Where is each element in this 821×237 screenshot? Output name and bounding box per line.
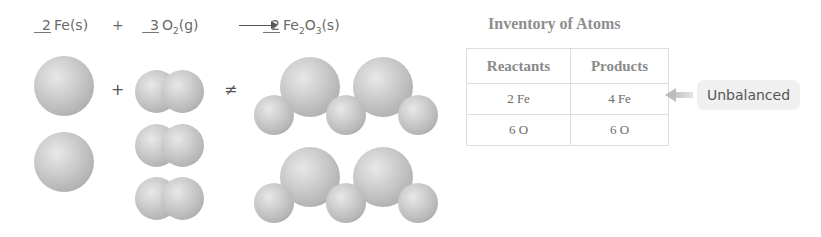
inventory-title: Inventory of Atoms (488, 15, 620, 33)
product-fe2o3-term: 2Fe2O3(s) (263, 17, 340, 36)
coefficient-blank: 2 (34, 19, 51, 33)
formula-part: O (305, 17, 316, 33)
header-reactants: Reactants (467, 49, 571, 84)
formula-part: Fe (283, 17, 299, 33)
reactant-o2-term: 3O2(g) (142, 17, 199, 36)
left-arrow-head-icon (665, 88, 676, 102)
cell-products: 4 Fe (571, 84, 669, 115)
inventory-table: Reactants Products 2 Fe 4 Fe 6 O 6 O (466, 48, 669, 146)
state: (s) (321, 17, 339, 33)
formula: Fe (54, 17, 70, 33)
fe-atom-icon (34, 132, 94, 192)
table-row: 2 Fe 4 Fe (467, 84, 669, 115)
cell-products: 6 O (571, 115, 669, 146)
plus-sign: + (112, 17, 124, 33)
coefficient-blank: 3 (142, 19, 159, 33)
status-badge: Unbalanced (697, 80, 800, 110)
header-products: Products (571, 49, 669, 84)
table-row: 6 O 6 O (467, 115, 669, 146)
not-equal-symbol: ≠ (224, 80, 237, 99)
plus-symbol: + (111, 80, 124, 99)
reactant-fe-term: 2Fe(s) (34, 17, 88, 33)
state: (s) (70, 17, 88, 33)
state: (g) (179, 17, 199, 33)
cell-reactants: 6 O (467, 115, 571, 146)
fe-atom-icon (34, 56, 94, 116)
table-header-row: Reactants Products (467, 49, 669, 84)
formula: O (162, 17, 173, 33)
cell-reactants: 2 Fe (467, 84, 571, 115)
coefficient-blank: 2 (263, 19, 280, 33)
left-arrow-icon (675, 92, 693, 98)
